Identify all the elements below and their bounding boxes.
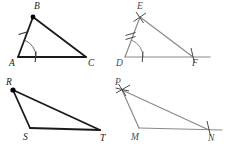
segment-pm (122, 90, 139, 128)
vertex-dot-b (31, 15, 36, 20)
panel-triangle-def: D E F (115, 1, 210, 68)
segment-st (30, 128, 100, 130)
vertex-label-d: D (115, 58, 123, 68)
vertex-label-s: S (23, 132, 28, 142)
segment-pn (122, 90, 209, 130)
vertex-dot-r (10, 87, 15, 92)
vertex-label-r: R (5, 77, 12, 87)
panel-triangle-abc: A B C (8, 1, 95, 68)
segment-bc (33, 17, 86, 57)
vertex-label-t: T (100, 133, 106, 143)
vertex-label-a: A (8, 58, 15, 68)
vertex-label-f: F (191, 58, 198, 68)
geometry-figure: A B C D E F (0, 0, 230, 150)
vertex-label-b: B (34, 1, 40, 11)
geometry-canvas: A B C D E F (0, 0, 230, 150)
segment-ef (140, 17, 193, 57)
segment-mn-ray (139, 128, 222, 130)
panel-triangle-rst: R S T (5, 77, 106, 143)
tick-mark-de-2 (126, 37, 136, 40)
segment-rt (13, 90, 100, 130)
construction-arc-a (25, 40, 37, 57)
panel-triangle-pmn: P M N (114, 77, 222, 143)
vertex-label-p: P (114, 77, 121, 87)
vertex-label-c: C (88, 58, 95, 68)
vertex-label-n: N (207, 133, 215, 143)
segment-ab (18, 17, 33, 57)
construction-cross-e-2 (136, 12, 144, 23)
vertex-label-e: E (136, 1, 143, 11)
construction-arc-d (132, 40, 144, 57)
vertex-label-m: M (130, 132, 140, 142)
